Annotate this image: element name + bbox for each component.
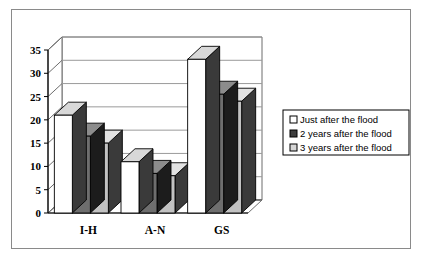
chart-figure: 05101520253035 I-HA-NGS Just after the f… [0,0,422,258]
y-tick-label: 10 [30,160,42,172]
legend-label: Just after the flood [300,114,378,125]
y-tick-label: 5 [36,184,42,196]
y-tick-label: 25 [30,91,42,103]
bar-side-face [90,123,104,213]
y-tick-label: 20 [30,114,42,126]
y-tick-label: 0 [36,207,42,219]
y-tick-label: 30 [30,67,42,79]
bar-front-face [188,59,206,213]
legend-swatch [290,144,297,151]
bar-side-face [224,81,238,213]
legend-label: 2 years after the flood [300,128,392,139]
legend-swatch [290,130,297,137]
bar-side-face [206,46,220,213]
bar-side-face [72,102,86,213]
legend-item-3[interactable]: 3 years after the flood [290,142,392,153]
bar-i-h-series-1 [54,102,86,213]
legend-item-2[interactable]: 2 years after the flood [290,128,392,139]
x-category-label: I-H [80,224,97,236]
bar-side-face [242,88,256,213]
bar-gs-series-1 [188,46,220,213]
bar-side-face [108,130,122,213]
bar-front-face [54,115,72,213]
y-tick-labels: 05101520253035 [30,44,42,219]
legend-label: 3 years after the flood [300,142,392,153]
legend-item-1[interactable]: Just after the flood [290,114,378,125]
x-category-label: A-N [145,224,166,236]
x-category-labels: I-HA-NGS [80,224,230,236]
chart-legend[interactable]: Just after the flood2 years after the fl… [283,110,409,155]
bar-front-face [121,162,139,213]
y-tick-label: 35 [30,44,42,56]
bar-a-n-series-1 [121,149,153,213]
bar-chart: 05101520253035 I-HA-NGS Just after the f… [0,0,422,258]
x-category-label: GS [214,224,229,236]
legend-swatch [290,116,297,123]
y-tick-label: 15 [30,137,42,149]
